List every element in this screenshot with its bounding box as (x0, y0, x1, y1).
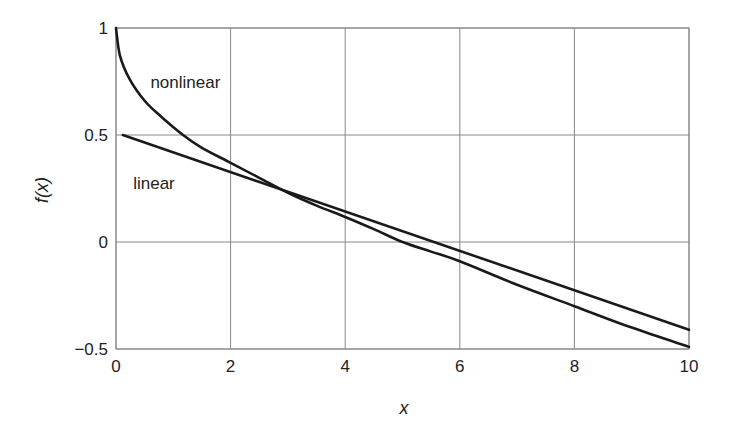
x-tick-label: 10 (680, 357, 699, 376)
y-tick-labels: −0.500.51 (74, 19, 108, 359)
y-axis-label: f(x) (32, 177, 52, 203)
x-tick-label: 8 (570, 357, 579, 376)
y-tick-label: 0.5 (84, 126, 108, 145)
y-tick-label: −0.5 (74, 340, 108, 359)
y-tick-label: 1 (99, 19, 108, 38)
annotation-linear: linear (133, 174, 175, 193)
x-tick-labels: 0246810 (111, 357, 698, 376)
annotation-nonlinear: nonlinear (150, 73, 220, 92)
line-chart: 0246810 −0.500.51 nonlinearlinear x f(x) (0, 0, 730, 434)
series-linear (123, 135, 689, 330)
x-tick-label: 6 (455, 357, 464, 376)
x-axis-label: x (399, 398, 410, 418)
annotations: nonlinearlinear (133, 73, 220, 193)
x-tick-label: 2 (226, 357, 235, 376)
x-tick-label: 4 (340, 357, 349, 376)
y-tick-label: 0 (99, 233, 108, 252)
x-tick-label: 0 (111, 357, 120, 376)
